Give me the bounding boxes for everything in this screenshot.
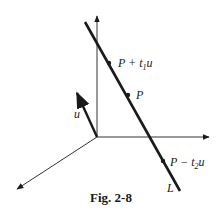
point-p-plus-t1u xyxy=(107,61,111,65)
x-axis xyxy=(17,137,97,189)
figure-caption: Fig. 2-8 xyxy=(90,190,132,205)
vector-u-arrow xyxy=(77,93,97,137)
point-p-minus-t2u xyxy=(161,159,165,163)
point-p xyxy=(126,93,130,97)
line-L-label: L xyxy=(166,181,174,195)
line-L xyxy=(85,22,180,191)
figure-diagram: u L P + t1u P P − t2u Fig. 2-8 xyxy=(0,0,218,212)
point-p-plus-t1u-label: P + t1u xyxy=(117,56,153,72)
vector-u-label: u xyxy=(74,107,80,121)
point-p-label: P xyxy=(135,88,144,102)
point-p-minus-t2u-label: P − t2u xyxy=(169,155,205,171)
